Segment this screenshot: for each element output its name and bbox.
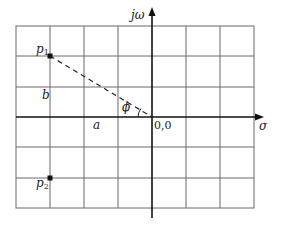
origin-label: 0,0 <box>154 120 172 131</box>
imaginary-axis <box>149 7 156 218</box>
real-part-label-a: a <box>93 119 100 131</box>
real-axis-label: σ <box>259 120 267 132</box>
s-plane-diagram <box>0 0 281 227</box>
imag-part-label-b: b <box>42 89 50 101</box>
angle-arc <box>138 109 141 118</box>
real-axis <box>16 114 264 121</box>
angle-phi-label: ϕ <box>122 101 130 113</box>
imaginary-axis-label: jω <box>131 9 145 21</box>
pole-p2-label: p2 <box>36 177 49 191</box>
pole-p1-label: p1 <box>36 43 49 57</box>
